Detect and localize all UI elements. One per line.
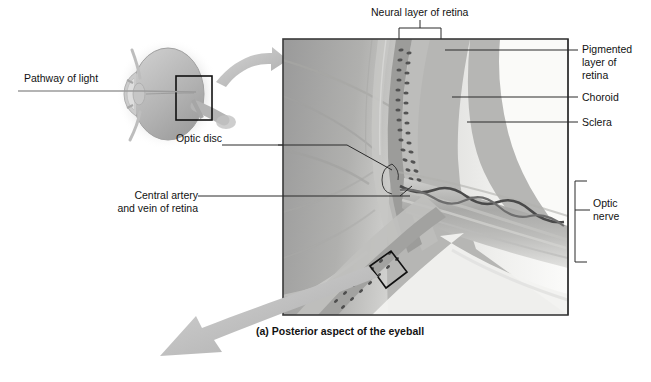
figure-caption: (a) Posterior aspect of the eyeball [256, 325, 424, 338]
label-central-artery-line1: Central artery [134, 189, 198, 202]
pathway-of-light-line [18, 91, 196, 92]
figure-root: Pathway of light Neural layer of retina … [0, 0, 651, 382]
label-sclera: Sclera [582, 116, 612, 129]
label-central-artery-line2: and vein of retina [117, 202, 198, 215]
label-optic-nerve-line1: Optic [593, 197, 618, 210]
label-pigmented-layer-line1: Pigmented [582, 43, 632, 56]
label-optic-nerve-line2: nerve [593, 210, 619, 223]
label-neural-layer-of-retina: Neural layer of retina [371, 6, 468, 19]
leader-neural-layer [399, 20, 441, 39]
label-pigmented-layer-line3: retina [582, 69, 608, 82]
label-pathway-of-light: Pathway of light [24, 72, 98, 85]
label-choroid: Choroid [582, 91, 619, 104]
label-optic-disc: Optic disc [176, 132, 222, 145]
curved-arrow-icon-top [216, 47, 288, 87]
leader-optic-nerve [575, 181, 590, 262]
label-pigmented-layer-line2: layer of [582, 56, 616, 69]
